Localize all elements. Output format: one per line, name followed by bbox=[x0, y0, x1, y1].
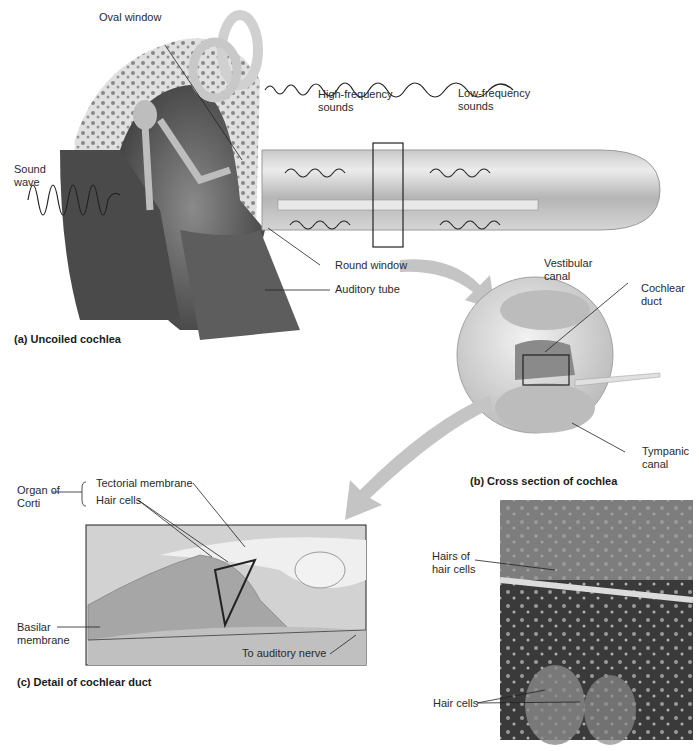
label-organ-of-corti-1: Organ of bbox=[17, 484, 60, 497]
label-high-frequency-2: sounds bbox=[318, 101, 353, 114]
label-auditory-tube: Auditory tube bbox=[335, 283, 400, 296]
label-hairs-of-hair-cells-1: Hairs of bbox=[432, 550, 470, 563]
label-hair-cells-micrograph: Hair cells bbox=[433, 697, 478, 710]
micrograph-hair-cells bbox=[475, 500, 693, 745]
label-vestibular-canal-1: Vestibular bbox=[544, 257, 592, 270]
label-low-frequency-1: Low-frequency bbox=[458, 87, 530, 100]
label-hair-cells-detail: Hair cells bbox=[96, 494, 141, 507]
label-round-window: Round window bbox=[335, 259, 407, 272]
label-to-auditory-nerve: To auditory nerve bbox=[242, 647, 326, 660]
label-tympanic-canal-2: canal bbox=[642, 458, 668, 471]
caption-panel-b: (b) Cross section of cochlea bbox=[470, 475, 617, 487]
label-sound-wave-2: wave bbox=[14, 176, 40, 189]
label-hairs-of-hair-cells-2: hair cells bbox=[432, 563, 475, 576]
label-high-frequency-1: High-frequency bbox=[318, 88, 393, 101]
label-cochlear-duct-2: duct bbox=[641, 295, 662, 308]
label-organ-of-corti-2: Corti bbox=[17, 497, 40, 510]
panel-c-cochlear-duct bbox=[52, 482, 366, 665]
label-tectorial-membrane: Tectorial membrane bbox=[96, 477, 193, 490]
label-basilar-membrane-1: Basilar bbox=[17, 621, 51, 634]
caption-panel-c: (c) Detail of cochlear duct bbox=[17, 676, 151, 688]
label-vestibular-canal-2: canal bbox=[544, 270, 570, 283]
caption-panel-a: (a) Uncoiled cochlea bbox=[14, 333, 121, 345]
label-tympanic-canal-1: Tympanic bbox=[642, 445, 689, 458]
label-cochlear-duct-1: Cochlear bbox=[641, 282, 685, 295]
label-oval-window: Oval window bbox=[99, 11, 161, 24]
label-basilar-membrane-2: membrane bbox=[17, 634, 70, 647]
label-low-frequency-2: sounds bbox=[458, 100, 493, 113]
label-sound-wave-1: Sound bbox=[14, 163, 46, 176]
